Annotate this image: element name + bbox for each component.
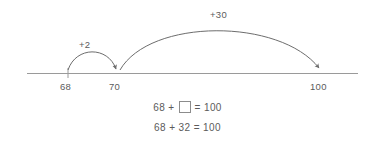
answer-box[interactable] [179, 101, 191, 113]
equation-unknown-addend: 68 + = 100 [0, 101, 375, 113]
equation-solved-text: 68 + 32 = 100 [154, 122, 221, 133]
equation-solved: 68 + 32 = 100 [0, 122, 375, 133]
tick-label-68: 68 [60, 81, 71, 92]
jump-label-plus-2: +2 [79, 39, 90, 50]
jump-arc-plus-2 [68, 52, 116, 70]
jump-arc-plus-30 [120, 31, 319, 70]
jump-label-plus-30: +30 [210, 9, 227, 20]
equation-right-side: = 100 [195, 102, 222, 113]
tick-label-100: 100 [310, 81, 327, 92]
tick-label-70: 70 [109, 81, 120, 92]
number-line-diagram: +2 +30 68 70 100 68 + = 100 68 + 32 = 10… [0, 0, 375, 143]
equation-left-operand: 68 + [153, 102, 174, 113]
